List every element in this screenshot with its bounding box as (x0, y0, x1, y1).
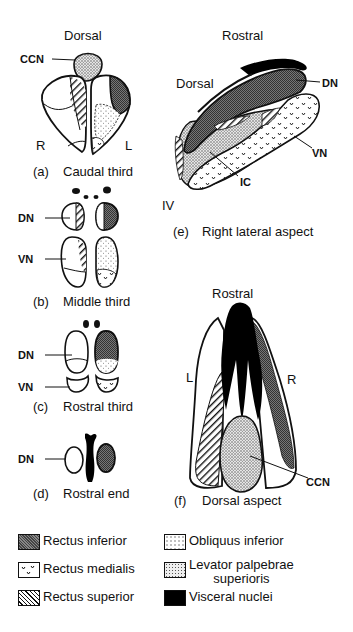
dense-crosshatch-swatch-icon (18, 534, 40, 550)
solid-black-swatch-icon (164, 590, 186, 606)
r-label-f: R (287, 372, 296, 387)
dorsal-label-e: Dorsal (176, 76, 214, 91)
rostral-label-f: Rostral (212, 286, 253, 301)
panel-e: Rostral Dorsal DN VN IC IV (e) Right lat… (162, 28, 338, 239)
caption-a: Caudal third (63, 164, 133, 179)
caption-c: Rostral third (63, 399, 133, 414)
dn-label-e: DN (322, 77, 338, 89)
panel-a: Dorsal CCN R L (a) Caudal third (20, 28, 133, 179)
legend-rectus-medialis: Rectus medialis (18, 562, 135, 578)
panel-c: DN VN (c) Rostral third (18, 320, 133, 414)
caption-f: Dorsal aspect (202, 493, 282, 508)
dense-stipple-swatch-icon (164, 562, 186, 578)
panel-b: DN VN (b) Middle third (18, 187, 130, 310)
ic-label-e: IC (240, 176, 251, 188)
legend-visceral-nuclei: Visceral nuclei (164, 590, 273, 606)
caption-d: Rostral end (63, 486, 129, 501)
ccn-label: CCN (20, 53, 44, 65)
vn-label-c: VN (18, 381, 33, 393)
caption-f-letter: (f) (174, 493, 186, 508)
diagonal-hatch-swatch-icon (18, 590, 40, 606)
legend-obliquus-inferior: Obliquus inferior (164, 534, 284, 550)
caption-b-letter: (b) (33, 294, 49, 309)
dn-label-d: DN (18, 453, 34, 465)
dn-label-b: DN (18, 212, 34, 224)
caption-c-letter: (c) (33, 399, 48, 414)
caption-d-letter: (d) (33, 486, 49, 501)
caption-e-letter: (e) (173, 224, 189, 239)
legend-levator-palpebrae: Levator palpebrae superioris (164, 558, 294, 586)
r-label: R (36, 138, 45, 153)
dorsal-label: Dorsal (64, 28, 102, 43)
caption-b: Middle third (63, 294, 130, 309)
caption-a-letter: (a) (33, 164, 49, 179)
v-marks-swatch-icon (18, 562, 40, 578)
rostral-label-e: Rostral (222, 28, 263, 43)
l-label-f: L (186, 370, 193, 385)
vn-label-e: VN (312, 147, 327, 159)
l-label: L (125, 138, 132, 153)
dn-label-c: DN (18, 349, 34, 361)
sparse-dots-swatch-icon (164, 534, 186, 550)
ccn-label-f: CCN (306, 476, 330, 488)
panel-d: DN (d) Rostral end (18, 434, 129, 501)
vn-label-b: VN (18, 253, 33, 265)
iv-label-e: IV (162, 198, 175, 213)
caption-e: Right lateral aspect (202, 224, 314, 239)
legend-rectus-superior: Rectus superior (18, 590, 134, 606)
panel-f: Rostral L R CCN (f) Dorsal aspect (174, 286, 330, 508)
legend-rectus-inferior: Rectus inferior (18, 534, 127, 550)
